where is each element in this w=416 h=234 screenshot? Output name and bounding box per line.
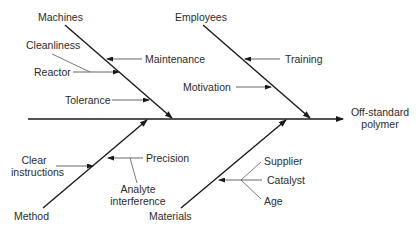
effect-line-1: Off-standard	[346, 106, 414, 118]
cause-reactor: Reactor	[34, 66, 71, 78]
effect-line-2: polymer	[346, 118, 414, 130]
effect-label: Off-standard polymer	[346, 106, 414, 130]
cause-line-analyte	[130, 158, 137, 183]
bone-employees	[203, 25, 310, 118]
cause-analyte-interference: Analyte interference	[108, 183, 168, 207]
category-employees: Employees	[175, 11, 227, 23]
cause-cleanliness: Cleanliness	[26, 39, 80, 51]
cause-line-age	[241, 180, 261, 199]
cause-line-supplier	[241, 162, 261, 180]
cause-supplier: Supplier	[264, 155, 303, 167]
cause-clear-line-1: Clear	[11, 154, 57, 166]
category-method: Method	[14, 210, 49, 222]
cause-training: Training	[285, 53, 323, 65]
cause-age: Age	[264, 195, 283, 207]
category-machines: Machines	[38, 11, 83, 23]
cause-tolerance: Tolerance	[65, 94, 111, 106]
cause-maintenance: Maintenance	[145, 53, 205, 65]
cause-motivation: Motivation	[183, 81, 231, 93]
cause-precision: Precision	[146, 152, 189, 164]
cause-clear-line-2: instructions	[11, 166, 57, 178]
cause-analyte-line-1: Analyte	[108, 183, 168, 195]
category-materials: Materials	[149, 210, 192, 222]
cause-catalyst: Catalyst	[267, 174, 305, 186]
cause-analyte-line-2: interference	[108, 195, 168, 207]
cause-clear-instructions: Clear instructions	[11, 154, 57, 178]
